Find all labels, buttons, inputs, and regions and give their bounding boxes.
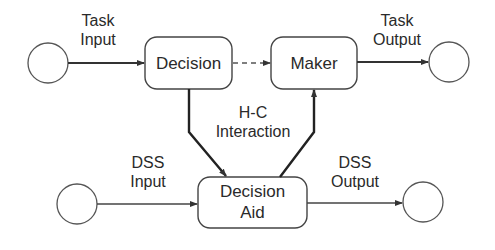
task-output-line2: Output <box>365 30 429 49</box>
dss-input-terminal <box>57 184 97 224</box>
decision-aid-label: Decision Aid <box>198 181 307 223</box>
maker-label: Maker <box>271 53 357 74</box>
task-input-terminal <box>28 43 68 83</box>
dss-output-line2: Output <box>323 172 387 191</box>
hc-line2: Interaction <box>205 122 301 141</box>
task-output-terminal <box>429 42 469 82</box>
task-output-label: Task Output <box>365 11 429 49</box>
decision-aid-line1: Decision <box>198 181 307 202</box>
dss-output-label: DSS Output <box>323 153 387 191</box>
task-input-label: Task Input <box>68 11 128 49</box>
dss-input-line1: DSS <box>118 153 178 172</box>
decision-aid-line2: Aid <box>198 202 307 223</box>
dss-input-label: DSS Input <box>118 153 178 191</box>
dss-input-line2: Input <box>118 172 178 191</box>
task-input-line2: Input <box>68 30 128 49</box>
hc-interaction-label: H-C Interaction <box>205 103 301 141</box>
decision-label: Decision <box>145 53 232 74</box>
task-output-line1: Task <box>365 11 429 30</box>
dss-output-line1: DSS <box>323 153 387 172</box>
hc-line1: H-C <box>205 103 301 122</box>
task-input-line1: Task <box>68 11 128 30</box>
dss-output-terminal <box>403 182 443 222</box>
